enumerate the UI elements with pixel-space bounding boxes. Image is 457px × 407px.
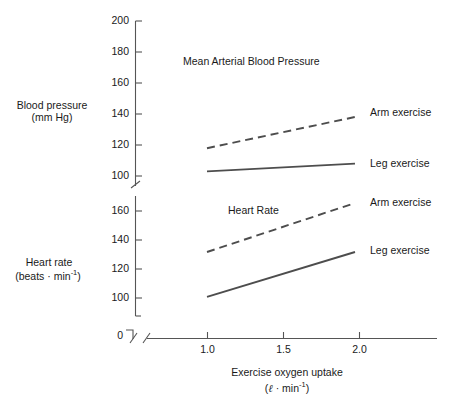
bp-arm-exercise-line	[207, 117, 355, 148]
bp-arm-exercise-label: Arm exercise	[370, 106, 431, 119]
hr-arm-exercise-label: Arm exercise	[370, 196, 431, 209]
hr-ytick-label-160: 160	[95, 204, 129, 217]
bp-ytick-label-180: 180	[95, 45, 129, 58]
x-axis-units: (ℓ · min-1)	[193, 380, 381, 395]
hr-axis-title-line2-pre: (beats · min	[15, 270, 70, 282]
hr-panel-title: Heart Rate	[228, 204, 279, 217]
figure-canvas: 200 180 160 140 120 100 Blood pressure (…	[0, 0, 457, 407]
xtick-label-1-0: 1.0	[187, 343, 228, 356]
bp-ytick-label-160: 160	[95, 76, 129, 89]
xtick-label-2-0: 2.0	[339, 343, 380, 356]
bp-ytick-label-100: 100	[95, 169, 129, 182]
hr-ytick-label-100: 100	[95, 291, 129, 304]
hr-ytick-label-140: 140	[95, 233, 129, 246]
bp-series-lines	[207, 117, 355, 171]
x-axis-units-close: )	[306, 382, 310, 394]
x-axis	[147, 332, 437, 339]
hr-ytick-label-120: 120	[95, 262, 129, 275]
bp-leg-exercise-label: Leg exercise	[370, 157, 430, 170]
bp-axis-title-line2: (mm Hg)	[12, 111, 92, 124]
axis-zero-label: 0	[95, 329, 123, 342]
x-axis-units-mid: · min	[273, 382, 299, 394]
x-axis-title: Exercise oxygen uptake	[193, 366, 381, 379]
bp-leg-exercise-line	[207, 164, 355, 172]
hr-axis-title-line2: (beats · min-1)	[2, 268, 94, 283]
hr-leg-exercise-line	[207, 252, 355, 297]
bp-y-axis	[131, 21, 142, 188]
hr-y-axis	[126, 196, 150, 343]
bp-ytick-label-200: 200	[95, 14, 129, 27]
zero-break-bracket	[126, 330, 133, 339]
bp-ytick-label-120: 120	[95, 138, 129, 151]
hr-leg-exercise-label: Leg exercise	[370, 244, 430, 257]
bp-panel-title: Mean Arterial Blood Pressure	[183, 55, 320, 68]
hr-axis-title-line2-post: )	[77, 270, 81, 282]
bp-ytick-label-140: 140	[95, 107, 129, 120]
xtick-label-1-5: 1.5	[263, 343, 304, 356]
x-axis-units-exponent: -1	[299, 380, 306, 389]
